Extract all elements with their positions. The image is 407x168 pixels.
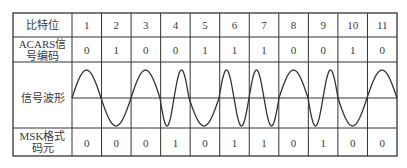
msk-symbol-cell: 0	[72, 137, 102, 149]
acars-code-cell: 0	[308, 44, 338, 56]
msk-symbol-cell: 1	[308, 137, 338, 149]
acars-code-cell: 1	[220, 44, 250, 56]
bit-position-cell: 5	[190, 19, 220, 31]
acars-code-cell: 0	[367, 44, 397, 56]
acars-code-cell: 0	[131, 44, 161, 56]
msk-symbol-cell: 1	[249, 137, 279, 149]
row-label-waveform: 信号波形	[13, 92, 72, 104]
row-label-msk-line1: MSK格式	[13, 130, 72, 142]
bit-position-cell: 9	[308, 19, 338, 31]
acars-code-cell: 1	[190, 44, 220, 56]
acars-msk-encoding-table: 比特位 ACARS信 号编码 信号波形 MSK格式 码元 10021030040…	[0, 0, 407, 168]
acars-code-cell: 1	[338, 44, 368, 56]
row-label-acars-line2: 号编码	[13, 50, 72, 62]
bit-position-cell: 1	[72, 19, 102, 31]
row-label-bit-position: 比特位	[13, 19, 72, 31]
msk-symbol-cell: 1	[220, 137, 250, 149]
bit-position-cell: 8	[279, 19, 309, 31]
bit-position-cell: 4	[161, 19, 191, 31]
msk-symbol-cell: 0	[190, 137, 220, 149]
acars-code-cell: 0	[279, 44, 309, 56]
msk-symbol-cell: 1	[161, 137, 191, 149]
bit-position-cell: 10	[338, 19, 368, 31]
acars-code-cell: 0	[72, 44, 102, 56]
row-label-msk-line2: 码元	[13, 142, 72, 154]
bit-position-cell: 2	[102, 19, 132, 31]
msk-symbol-cell: 0	[338, 137, 368, 149]
msk-symbol-cell: 0	[279, 137, 309, 149]
bit-position-cell: 3	[131, 19, 161, 31]
msk-symbol-cell: 0	[131, 137, 161, 149]
bit-position-cell: 7	[249, 19, 279, 31]
acars-code-cell: 1	[249, 44, 279, 56]
acars-code-cell: 1	[102, 44, 132, 56]
acars-code-cell: 0	[161, 44, 191, 56]
row-label-acars-code: ACARS信 号编码	[13, 38, 72, 62]
bit-position-cell: 11	[367, 19, 397, 31]
msk-symbol-cell: 0	[367, 137, 397, 149]
row-label-acars-line1: ACARS信	[13, 38, 72, 50]
row-label-msk-symbol: MSK格式 码元	[13, 130, 72, 154]
msk-symbol-cell: 0	[102, 137, 132, 149]
bit-position-cell: 6	[220, 19, 250, 31]
